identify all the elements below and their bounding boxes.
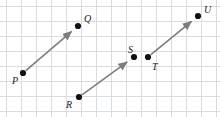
- point-label-s: S: [128, 45, 133, 55]
- point-label-q: Q: [84, 14, 91, 24]
- vector-r-s: [82, 62, 127, 95]
- point-label-u: U: [204, 5, 211, 15]
- point-label-t: T: [152, 62, 158, 72]
- point-label-r: R: [66, 100, 72, 110]
- point-r: [76, 94, 82, 100]
- point-p: [20, 70, 26, 76]
- points-group: [20, 13, 201, 100]
- vector-layer: [0, 0, 220, 117]
- vector-p-q: [26, 31, 72, 70]
- point-q: [75, 23, 81, 29]
- vector-t-u: [151, 21, 192, 54]
- segments-group: [26, 21, 192, 95]
- point-label-p: P: [12, 76, 18, 86]
- point-u: [195, 13, 201, 19]
- point-t: [145, 54, 151, 60]
- figure-canvas: PQRSTU: [0, 0, 220, 117]
